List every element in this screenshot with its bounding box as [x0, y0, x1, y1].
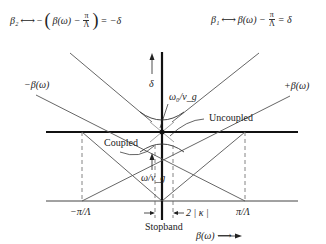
eq-left-fraction: π Λ: [83, 12, 89, 29]
label-coupled: Coupled: [104, 138, 138, 148]
label-pi-lambda: π/Λ: [236, 207, 250, 217]
eq-left-term: β(ω) −: [52, 15, 80, 26]
eq-left-arrow: ⟷: [20, 15, 34, 26]
delta-arrowhead-icon: [150, 53, 155, 60]
crossing-point: [160, 130, 165, 135]
eq-left-open: (: [44, 11, 50, 29]
label-stopband: Stopband: [145, 222, 183, 232]
label-omega-vg: ω/v_g: [141, 173, 165, 183]
label-uncoupled: Uncoupled: [209, 113, 253, 123]
eq-right-lhs: β₁: [211, 14, 219, 25]
stopband-right-arrowhead-icon: [173, 211, 178, 215]
equation-beta1: β₁ ⟷ β(ω) − π Λ = δ: [211, 11, 292, 28]
omega-vg-arrowhead-icon: [150, 153, 155, 160]
eq-left-lhs: β₂: [10, 15, 18, 26]
eq-right-term: β(ω) −: [238, 14, 266, 25]
eq-right-fraction: π Λ: [269, 11, 275, 28]
eq-left-frac-den: Λ: [84, 21, 90, 29]
minus-beta-line: [36, 95, 245, 201]
plus-beta-line: [82, 96, 290, 201]
eq-right-rhs: = δ: [278, 14, 292, 25]
label-beta-axis: β(ω) ⟶: [196, 231, 232, 241]
eq-left-close: ): [92, 11, 98, 29]
label-delta: δ: [149, 79, 154, 89]
minus-beta-outer-line: [70, 53, 152, 122]
label-two-kappa: 2 | κ |: [186, 208, 209, 218]
label-neg-pi-lambda: −π/Λ: [70, 207, 91, 217]
label-omega0-vg: ω₀/v_g: [169, 92, 197, 102]
eq-left-minus: −: [37, 15, 43, 26]
beta-axis-arrowhead-icon: [235, 234, 242, 239]
dispersion-diagram: [0, 0, 326, 244]
lower-cross-right: [162, 132, 245, 201]
label-neg-beta: −β(ω): [24, 80, 49, 90]
stopband-left-arrowhead-icon: [150, 211, 155, 215]
eq-right-frac-den: Λ: [269, 20, 275, 28]
uncoupled-pointer-icon: [170, 119, 204, 136]
eq-left-rhs: = −δ: [100, 15, 121, 26]
equation-beta2: β₂ ⟷ − ( β(ω) − π Λ ) = −δ: [10, 11, 121, 29]
eq-right-arrow: ⟷: [221, 14, 235, 25]
label-pos-beta: +β(ω): [284, 81, 309, 91]
